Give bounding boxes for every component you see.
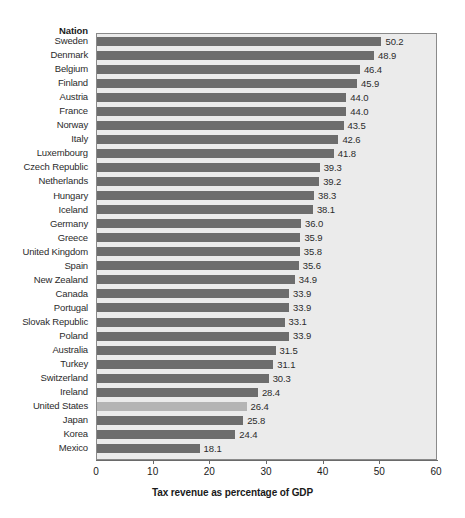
bar-row: Slovak Republic33.1 bbox=[0, 315, 465, 330]
tax-revenue-bar-chart: Nation Sweden50.2Denmark48.9Belgium46.4F… bbox=[0, 0, 465, 518]
x-axis-tick bbox=[379, 460, 380, 464]
bar bbox=[97, 289, 289, 298]
x-axis-tick-label: 60 bbox=[430, 466, 441, 477]
bar-row-label: Mexico bbox=[0, 442, 88, 453]
x-axis-tick bbox=[209, 460, 210, 464]
bar-row-label: United States bbox=[0, 400, 88, 411]
bar-row: Luxembourg41.8 bbox=[0, 146, 465, 161]
bar-value-label: 36.0 bbox=[305, 218, 323, 229]
bar-value-label: 45.9 bbox=[361, 78, 379, 89]
bar-row-label: Austria bbox=[0, 91, 88, 102]
bar-value-label: 30.3 bbox=[273, 373, 291, 384]
bar-row: Portugal33.9 bbox=[0, 301, 465, 316]
bar-row: Turkey31.1 bbox=[0, 357, 465, 372]
bar bbox=[97, 149, 334, 158]
x-axis-tick-label: 10 bbox=[147, 466, 158, 477]
bar-row-label: Germany bbox=[0, 218, 88, 229]
bar bbox=[97, 107, 346, 116]
bar-row-label: Luxembourg bbox=[0, 147, 88, 158]
bar-row: Norway43.5 bbox=[0, 118, 465, 133]
bar-row-label: Australia bbox=[0, 344, 88, 355]
bar-value-label: 41.8 bbox=[338, 148, 356, 159]
bar-row: United States26.4 bbox=[0, 399, 465, 414]
bar bbox=[97, 360, 273, 369]
bar-value-label: 18.1 bbox=[204, 443, 222, 454]
bar-value-label: 43.5 bbox=[348, 120, 366, 131]
bar bbox=[97, 444, 200, 453]
x-axis-tick bbox=[266, 460, 267, 464]
bar-row-label: Spain bbox=[0, 260, 88, 271]
bar-value-label: 44.0 bbox=[350, 92, 368, 103]
x-axis-tick bbox=[323, 460, 324, 464]
bar-row-label: Sweden bbox=[0, 35, 88, 46]
bar-row-label: Slovak Republic bbox=[0, 316, 88, 327]
bar-value-label: 42.6 bbox=[342, 134, 360, 145]
bar bbox=[97, 303, 289, 312]
bar-value-label: 31.5 bbox=[280, 345, 298, 356]
bar-value-label: 35.8 bbox=[304, 246, 322, 257]
bar-row: Italy42.6 bbox=[0, 132, 465, 147]
bar-row-label: Czech Republic bbox=[0, 161, 88, 172]
bar-value-label: 33.9 bbox=[293, 302, 311, 313]
bar-value-label: 25.8 bbox=[247, 415, 265, 426]
bar-row: Hungary38.3 bbox=[0, 189, 465, 204]
bar-row-label: Iceland bbox=[0, 204, 88, 215]
bar-value-label: 24.4 bbox=[239, 429, 257, 440]
bar-row: Japan25.8 bbox=[0, 413, 465, 428]
bar-row-label: France bbox=[0, 105, 88, 116]
bar-row: Ireland28.4 bbox=[0, 385, 465, 400]
x-axis-tick-label: 20 bbox=[204, 466, 215, 477]
bar-row: Switzerland30.3 bbox=[0, 371, 465, 386]
bar-row: Australia31.5 bbox=[0, 343, 465, 358]
bar-row-label: New Zealand bbox=[0, 274, 88, 285]
bar-value-label: 33.1 bbox=[289, 316, 307, 327]
bar-row: Belgium46.4 bbox=[0, 62, 465, 77]
x-axis-tick bbox=[153, 460, 154, 464]
bar bbox=[97, 93, 346, 102]
bar-row: Mexico18.1 bbox=[0, 441, 465, 456]
bar-row-label: Belgium bbox=[0, 63, 88, 74]
bar-value-label: 35.6 bbox=[303, 260, 321, 271]
bar bbox=[97, 219, 301, 228]
bar-row: New Zealand34.9 bbox=[0, 273, 465, 288]
bar-highlighted bbox=[97, 402, 247, 411]
bar bbox=[97, 65, 360, 74]
bar bbox=[97, 318, 285, 327]
bar-value-label: 26.4 bbox=[251, 401, 269, 412]
x-axis-tick-label: 40 bbox=[317, 466, 328, 477]
bar-row: Czech Republic39.3 bbox=[0, 160, 465, 175]
bar-row: Finland45.9 bbox=[0, 76, 465, 91]
x-axis-tick-label: 50 bbox=[374, 466, 385, 477]
bar-value-label: 48.9 bbox=[378, 50, 396, 61]
bar-row-label: Poland bbox=[0, 330, 88, 341]
bar bbox=[97, 79, 357, 88]
bar-value-label: 50.2 bbox=[385, 36, 403, 47]
bar bbox=[97, 163, 320, 172]
bar-row: Greece35.9 bbox=[0, 231, 465, 246]
bar bbox=[97, 177, 319, 186]
bar-value-label: 39.2 bbox=[323, 176, 341, 187]
bar-rows: Sweden50.2Denmark48.9Belgium46.4Finland4… bbox=[0, 33, 465, 460]
bar-row-label: Hungary bbox=[0, 190, 88, 201]
bar-value-label: 33.9 bbox=[293, 330, 311, 341]
bar-value-label: 34.9 bbox=[299, 274, 317, 285]
bar-row-label: Ireland bbox=[0, 386, 88, 397]
bar bbox=[97, 275, 295, 284]
bar-row: Germany36.0 bbox=[0, 217, 465, 232]
bar bbox=[97, 135, 338, 144]
bar-row-label: United Kingdom bbox=[0, 246, 88, 257]
bar-row: Iceland38.1 bbox=[0, 203, 465, 218]
bar bbox=[97, 205, 313, 214]
bar-value-label: 31.1 bbox=[277, 359, 295, 370]
bar bbox=[97, 346, 276, 355]
bar bbox=[97, 374, 269, 383]
bar bbox=[97, 37, 381, 46]
bar-row: Korea24.4 bbox=[0, 427, 465, 442]
bar bbox=[97, 121, 344, 130]
bar-value-label: 46.4 bbox=[364, 64, 382, 75]
bar-row-label: Turkey bbox=[0, 358, 88, 369]
bar-row: Sweden50.2 bbox=[0, 34, 465, 49]
bar bbox=[97, 261, 299, 270]
bar bbox=[97, 191, 314, 200]
bar-row: France44.0 bbox=[0, 104, 465, 119]
